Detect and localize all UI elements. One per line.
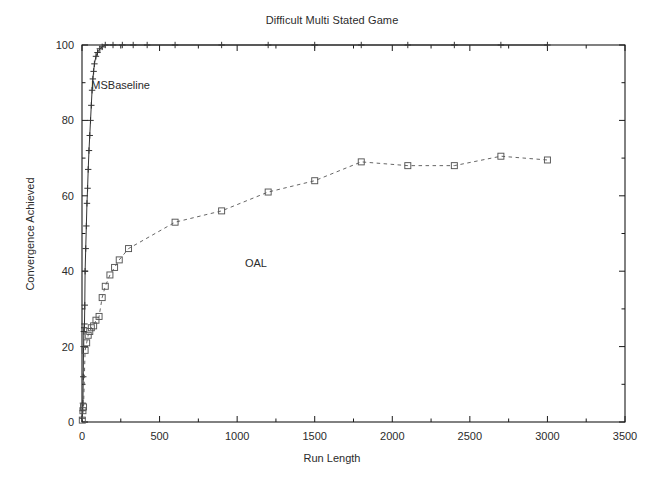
data-series <box>79 42 551 423</box>
series-oal <box>79 153 550 423</box>
series-msbaseline <box>79 42 551 422</box>
axes-frame <box>82 45 625 422</box>
plot-area <box>0 0 664 484</box>
chart-figure: Difficult Multi Stated Game Convergence … <box>0 0 664 484</box>
axis-ticks <box>82 45 625 422</box>
